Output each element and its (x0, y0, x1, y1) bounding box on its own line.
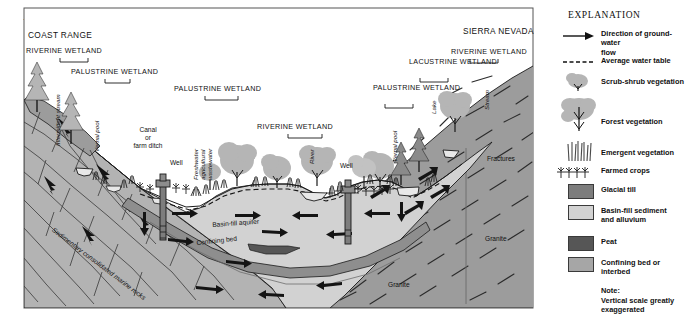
forest-icon (559, 97, 599, 135)
confining-bed-swatch (568, 257, 594, 272)
range-label-sierra-nevada: SIERRA NEVADA (463, 26, 534, 36)
crops-icon (555, 165, 595, 179)
arrow-icon (561, 30, 595, 42)
legend-label-peat: Peat (601, 237, 617, 246)
lake-water (397, 187, 419, 196)
wetland-label-riverine-right: RIVERINE WETLAND (451, 48, 527, 56)
scrub-shrub-icon (564, 73, 598, 91)
note-heading: Note: (601, 286, 620, 295)
feature-label-vernal-pool-right: Vernal pool (391, 131, 398, 162)
legend-label-direction-of-ground-water-flow: Direction of ground-water flow (601, 29, 691, 57)
feature-label-intermittent-stream: Intermittent stream (54, 94, 61, 146)
feature-label-well-right: Well (340, 162, 353, 170)
basin-fill-swatch (568, 205, 594, 220)
wetland-label-palustrine-left: PALUSTRINE WETLAND (71, 68, 158, 76)
legend-title: EXPLANATION (568, 10, 641, 20)
legend-label-average-water-table: Average water table (601, 56, 671, 65)
legend-label-emergent-vegetation: Emergent vegetation (601, 148, 674, 157)
legend-label-farmed-crops: Farmed crops (601, 166, 650, 175)
unit-label-granite-right: Granite (485, 235, 507, 242)
explanation-legend: EXPLANATION Direction of ground-water fl… (548, 0, 691, 334)
feature-label-lake: Lake (430, 101, 437, 114)
wetland-label-palustrine-right: PALUSTRINE WETLAND (373, 84, 425, 92)
legend-label-confining-bed-or-interbed: Confining bed or interbed (601, 258, 660, 277)
cross-section-diagram: COAST RANGE SIERRA NEVADA RIVERINE WETLA… (0, 0, 548, 334)
feature-label-canal-or-farm-ditch: Canal or farm ditch (126, 126, 170, 150)
unit-label-granite-left: Granite (388, 281, 410, 288)
wetland-label-riverine-center: RIVERINE WETLAND (257, 123, 333, 131)
feature-label-well-left: Well (170, 159, 183, 167)
feature-label-fractures: Fractures (487, 155, 515, 163)
wetland-label-lacustrine: LACUSTRINE WETLAND (409, 58, 461, 66)
feature-label-vernal-pool-left: Vernal pool (93, 121, 100, 152)
wetland-label-palustrine-center: PALUSTRINE WETLAND (174, 85, 261, 93)
feature-label-freshwater-agricultural-wastewater: Freshwater agricultural wastewater (192, 149, 213, 180)
figure-root: A. Central Valley (0, 0, 691, 334)
feature-label-stream: Stream (483, 90, 490, 110)
legend-label-basin-fill-sediment-and-alluvium: Basin-fill sediment and alluvium (601, 206, 667, 225)
emergent-icon (564, 140, 598, 162)
note-body: Vertical scale greatly exaggerated (601, 296, 674, 315)
glacial-till-swatch (568, 184, 594, 199)
dashed-line-icon (561, 57, 595, 67)
legend-label-scrub-shrub-vegetation: Scrub-shrub vegetation (601, 77, 684, 86)
peat-swatch (568, 236, 594, 251)
feature-label-river: River (308, 150, 315, 164)
range-label-coast-range: COAST RANGE (28, 30, 92, 40)
legend-label-forest-vegetation: Forest vegetation (601, 117, 663, 126)
wetland-label-riverine-left: RIVERINE WETLAND (26, 47, 102, 55)
legend-label-glacial-till: Glacial till (601, 185, 636, 194)
